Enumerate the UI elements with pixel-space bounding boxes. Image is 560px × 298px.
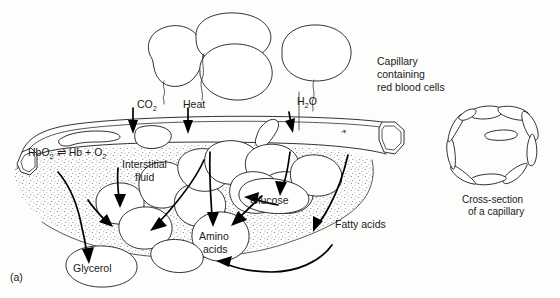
red-blood-cell-in-tube-left — [59, 131, 120, 146]
tissue-cells-upper — [148, 13, 351, 100]
label-capillary-note-line1: Capillary — [377, 55, 419, 67]
tissue-cell-3 — [200, 44, 272, 100]
leader-co2 — [163, 81, 164, 104]
arrow-heat-head — [183, 120, 193, 134]
label-glucose: Glucose — [250, 194, 289, 206]
endothelial-cell-bottom — [471, 174, 507, 185]
label-capillary-note-line3: red blood cells — [377, 81, 445, 93]
endothelial-cell-right-lower — [527, 134, 537, 166]
label-amino-line2: acids — [203, 243, 228, 255]
label-cross-section-line2: of a capillary — [468, 206, 524, 217]
red-blood-cell-cross-section — [485, 130, 517, 140]
label-interstitial-line1: Interstitial — [122, 158, 167, 170]
tissue-cell-1 — [148, 26, 203, 87]
endothelial-cell-bottom-right — [503, 163, 527, 183]
red-blood-cell-in-tube-mid — [135, 126, 171, 149]
label-cross-section-line1: Cross-section — [462, 194, 523, 205]
label-co2: CO2 — [137, 98, 157, 113]
capillary-cross-section — [447, 106, 538, 185]
label-capillary-note-line2: containing — [377, 68, 425, 80]
endothelial-cell-left-lower — [447, 139, 456, 170]
arrow-h2o-head — [285, 118, 295, 133]
tissue-cell-4 — [282, 25, 351, 81]
label-h2o: H2O — [297, 95, 317, 110]
label-glycerol: Glycerol — [73, 262, 112, 274]
panel-label: (a) — [10, 271, 23, 283]
label-heat: Heat — [183, 98, 205, 110]
label-interstitial-line2: fluid — [135, 171, 154, 183]
endothelial-cell-upper-left-small — [459, 109, 476, 120]
label-fatty-acids: Fatty acids — [335, 218, 386, 230]
label-amino-line1: Amino — [199, 230, 229, 242]
figure-canvas: CO2 Heat H2O Capillary containing red bl… — [0, 0, 560, 298]
